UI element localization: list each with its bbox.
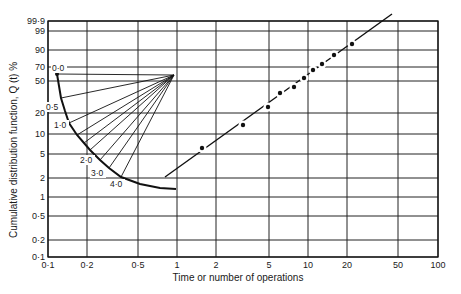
shape-label: 1·0 bbox=[54, 120, 67, 130]
data-point bbox=[311, 68, 315, 72]
shape-label: 2·0 bbox=[80, 155, 93, 165]
data-point bbox=[302, 76, 306, 80]
plot-frame bbox=[48, 21, 438, 257]
y-tick-label: 70 bbox=[35, 62, 45, 72]
x-tick-label: 20 bbox=[342, 260, 352, 270]
shape-label: 0·5 bbox=[46, 102, 59, 112]
x-axis-ticks: 0·10·20·5125102050100 bbox=[41, 260, 445, 270]
data-point bbox=[332, 53, 336, 57]
data-points bbox=[198, 40, 357, 153]
arc-path bbox=[57, 74, 176, 189]
data-point bbox=[278, 91, 282, 95]
fan-line bbox=[77, 75, 174, 135]
data-point bbox=[200, 146, 204, 150]
data-point bbox=[266, 105, 270, 109]
y-axis-ticks: 0·10·20·512510205070909999·9 bbox=[27, 16, 45, 262]
y-tick-label: 0·1 bbox=[32, 252, 45, 262]
data-point bbox=[350, 42, 354, 46]
y-tick-label: 50 bbox=[35, 76, 45, 86]
y-tick-label: 1 bbox=[40, 192, 45, 202]
fan-line bbox=[69, 75, 174, 123]
weibull-probability-chart: 0·10·20·5125102050100 0·10·20·5125102050… bbox=[0, 0, 461, 294]
x-tick-label: 1 bbox=[174, 260, 179, 270]
y-tick-label: 0·2 bbox=[32, 235, 45, 245]
data-point bbox=[292, 85, 296, 89]
y-tick-label: 99·9 bbox=[27, 16, 45, 26]
shape-parameter-fan-lines bbox=[57, 74, 174, 177]
fan-line bbox=[84, 75, 174, 143]
fan-line bbox=[57, 74, 174, 75]
x-tick-label: 0·5 bbox=[131, 260, 144, 270]
x-tick-label: 50 bbox=[393, 260, 403, 270]
y-tick-label: 2 bbox=[40, 173, 45, 183]
shape-label: 4·0 bbox=[110, 179, 123, 189]
x-tick-label: 100 bbox=[430, 260, 445, 270]
y-tick-label: 5 bbox=[40, 149, 45, 159]
shape-label: 3·0 bbox=[91, 168, 104, 178]
y-axis-title: Cumulative distribution function, Q (t) … bbox=[8, 62, 19, 238]
data-point bbox=[241, 123, 245, 127]
x-tick-label: 5 bbox=[266, 260, 271, 270]
x-tick-label: 0·2 bbox=[80, 260, 93, 270]
y-tick-label: 90 bbox=[35, 45, 45, 55]
shape-label: 0·0 bbox=[52, 63, 65, 73]
y-tick-label: 10 bbox=[35, 129, 45, 139]
data-point bbox=[320, 62, 324, 66]
x-tick-label: 10 bbox=[303, 260, 313, 270]
y-tick-label: 0·5 bbox=[32, 211, 45, 221]
y-tick-label: 20 bbox=[35, 108, 45, 118]
grid-lines bbox=[48, 21, 438, 257]
x-axis-title: Time or number of operations bbox=[173, 272, 304, 283]
x-tick-label: 2 bbox=[213, 260, 218, 270]
fan-line bbox=[121, 75, 174, 177]
y-tick-label: 99 bbox=[35, 26, 45, 36]
